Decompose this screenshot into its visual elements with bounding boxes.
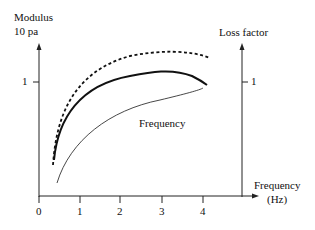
left-axis-label-line1: Modulus [14, 11, 53, 23]
x-tick-label-2: 2 [117, 205, 123, 217]
right-axis-label: Loss factor [219, 26, 268, 38]
inner-frequency-label: Frequency [139, 117, 185, 129]
left-axis-arrow-icon [37, 43, 42, 50]
x-tick-label-0: 0 [36, 205, 42, 217]
x-axis-label-line1: Frequency [254, 179, 300, 191]
right-tick-label-1: 1 [251, 75, 257, 87]
x-axis-arrow-icon [252, 194, 259, 199]
x-tick-label-4: 4 [200, 205, 206, 217]
x-tick-label-3: 3 [159, 205, 165, 217]
left-tick-label-1: 1 [22, 75, 28, 87]
left-axis-label-line2: 10 pa [14, 25, 38, 37]
x-tick-label-1: 1 [77, 205, 83, 217]
right-axis-arrow-icon [240, 43, 245, 50]
x-axis-label-line2: (Hz) [267, 193, 287, 205]
